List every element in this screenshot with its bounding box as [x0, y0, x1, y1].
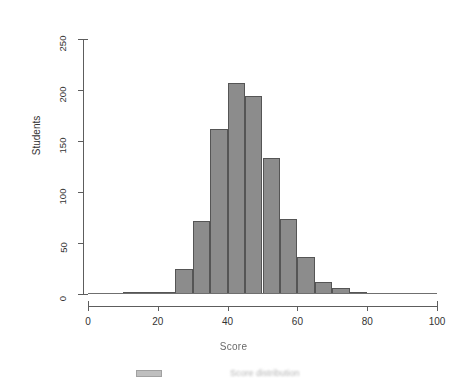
histogram-bar — [280, 219, 297, 294]
y-axis-tick-label: 200 — [52, 84, 74, 96]
x-axis-tick-label: 40 — [208, 316, 248, 327]
x-axis-tick — [367, 306, 368, 311]
x-axis-tick-label: 80 — [347, 316, 387, 327]
y-axis-tick — [78, 243, 83, 244]
histogram-bar — [210, 129, 227, 294]
y-axis-tick-label: 150 — [52, 135, 74, 147]
legend: Score distribution — [0, 367, 467, 379]
x-axis-tick — [88, 306, 89, 311]
plot-area — [88, 39, 437, 294]
data-baseline — [88, 293, 437, 294]
x-axis-tick — [297, 306, 298, 311]
y-axis-tick — [78, 141, 83, 142]
x-axis-tick — [437, 306, 438, 311]
y-axis-tick-label: 100 — [52, 186, 74, 198]
legend-swatch-students — [136, 370, 162, 377]
y-axis-tick — [78, 192, 83, 193]
y-axis-tick — [78, 90, 83, 91]
histogram-bar — [245, 96, 262, 294]
y-axis-tick-label: 250 — [52, 33, 74, 45]
x-axis-tick-label: 100 — [417, 316, 457, 327]
histogram-bar — [297, 257, 314, 294]
histogram-bar — [193, 221, 210, 294]
y-axis-title: Students — [31, 96, 42, 176]
y-axis-tick-label: 50 — [52, 237, 74, 249]
y-axis-tick-label: 0 — [52, 288, 74, 300]
legend-label: Score distribution — [230, 368, 300, 378]
y-axis-line — [83, 39, 84, 295]
histogram-bar — [228, 83, 245, 294]
x-axis-tick-label: 0 — [68, 316, 108, 327]
histogram-figure: Students 050100150200250 020406080100 Sc… — [0, 0, 467, 379]
x-axis-cap — [88, 301, 89, 306]
histogram-bar — [263, 158, 280, 294]
x-axis-tick — [158, 306, 159, 311]
x-axis-line — [88, 306, 438, 307]
x-axis-tick-label: 20 — [138, 316, 178, 327]
y-axis-cap — [83, 294, 88, 295]
x-axis-title: Score — [0, 341, 467, 352]
x-axis-tick-label: 60 — [277, 316, 317, 327]
x-axis-tick — [228, 306, 229, 311]
x-axis-cap — [437, 301, 438, 306]
histogram-bar — [175, 269, 192, 295]
